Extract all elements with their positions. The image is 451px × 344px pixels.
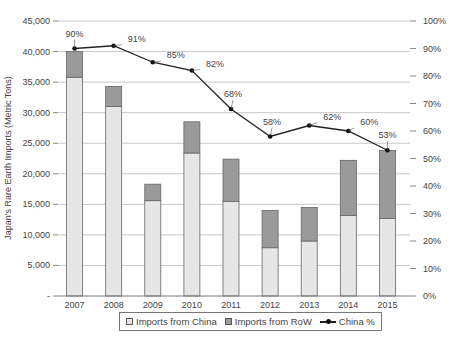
bar-imports-row — [145, 184, 161, 201]
y-axis-right: 0%10%20%30%40%50%60%70%80%90%100% — [410, 16, 446, 301]
data-label: 62% — [323, 112, 341, 122]
bar-imports-china — [223, 201, 239, 296]
y2-tick-label: 10% — [423, 264, 441, 274]
chart: -5,00010,00015,00020,00025,00030,00035,0… — [0, 0, 451, 344]
bar-imports-china — [379, 218, 395, 296]
legend-label: Imports from RoW — [235, 316, 312, 327]
x-tick-label: 2015 — [377, 300, 397, 310]
data-label: 58% — [263, 117, 281, 127]
bar-imports-row — [262, 210, 278, 247]
y-tick-label: 40,000 — [22, 47, 50, 57]
bar-imports-china — [67, 77, 83, 296]
y-tick-label: 30,000 — [22, 108, 50, 118]
bar-imports-row — [67, 52, 83, 78]
data-label: 85% — [167, 50, 185, 60]
bar-imports-china — [184, 153, 200, 296]
y-tick-label: 15,000 — [22, 199, 50, 209]
y-tick-label: 25,000 — [22, 138, 50, 148]
data-label: 53% — [378, 130, 396, 140]
bar-imports-china — [262, 248, 278, 296]
y2-tick-label: 100% — [423, 16, 446, 26]
y2-tick-label: 60% — [423, 126, 441, 136]
legend-item-imports-china: Imports from China — [126, 316, 217, 327]
x-tick-label: 2013 — [299, 300, 319, 310]
y-tick-label: 35,000 — [22, 77, 50, 87]
bar-imports-row — [379, 151, 395, 219]
line-marker-icon — [320, 318, 336, 325]
data-label: 68% — [224, 89, 242, 99]
x-tick-label: 2011 — [221, 300, 240, 310]
x-tick-label: 2010 — [182, 300, 202, 310]
legend-label: China % — [339, 316, 375, 327]
bar-imports-china — [301, 241, 317, 296]
y-tick-label: 20,000 — [22, 169, 50, 179]
bar-imports-row — [106, 86, 122, 106]
x-tick-label: 2014 — [338, 300, 358, 310]
data-label: 91% — [128, 34, 146, 44]
x-tick-label: 2008 — [104, 300, 124, 310]
y2-tick-label: 0% — [423, 291, 436, 301]
bar-imports-row — [223, 159, 239, 201]
chart-plot-area: -5,00010,00015,00020,00025,00030,00035,0… — [0, 0, 451, 344]
y2-tick-label: 90% — [423, 44, 441, 54]
y-tick-label: 10,000 — [22, 230, 50, 240]
y-tick-label: - — [47, 291, 50, 301]
y-axis-left: -5,00010,00015,00020,00025,00030,00035,0… — [22, 16, 58, 301]
y2-tick-label: 70% — [423, 99, 441, 109]
x-tick-label: 2009 — [143, 300, 163, 310]
x-tick-label: 2012 — [260, 300, 280, 310]
bar-imports-row — [184, 122, 200, 153]
y-axis-title: Japan's Rare Earth Imports (Metric Tons) — [3, 76, 13, 240]
data-label: 82% — [206, 59, 224, 69]
y2-tick-label: 80% — [423, 71, 441, 81]
china-swatch-icon — [126, 318, 133, 325]
y-tick-label: 5,000 — [27, 260, 50, 270]
y2-tick-label: 40% — [423, 181, 441, 191]
bar-imports-row — [301, 207, 317, 241]
legend-item-imports-row: Imports from RoW — [225, 316, 312, 327]
y2-tick-label: 20% — [423, 236, 441, 246]
row-swatch-icon — [225, 318, 232, 325]
data-label: 60% — [360, 117, 378, 127]
x-axis: 200720082009201020112012201320142015 — [58, 296, 410, 310]
y-tick-label: 45,000 — [22, 16, 50, 26]
bar-imports-china — [145, 201, 161, 296]
bar-imports-china — [106, 107, 122, 296]
legend: Imports from China Imports from RoW Chin… — [119, 312, 382, 331]
y2-tick-label: 50% — [423, 154, 441, 164]
legend-label: Imports from China — [136, 316, 217, 327]
data-label: 90% — [66, 29, 84, 39]
x-tick-label: 2007 — [65, 300, 85, 310]
legend-item-china-percent: China % — [320, 316, 375, 327]
y2-tick-label: 30% — [423, 209, 441, 219]
bar-imports-china — [340, 215, 356, 296]
bar-imports-row — [340, 160, 356, 215]
